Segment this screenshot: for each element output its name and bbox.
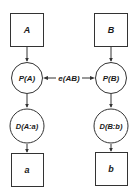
arrowhead-right-icon — [90, 76, 95, 80]
node-circle-PA: P(A) — [12, 63, 43, 94]
node-box-A: A — [11, 14, 44, 47]
node-label-DB: D(B:b) — [100, 122, 123, 131]
node-box-b: b — [96, 153, 128, 186]
node-label-PB: P(B) — [103, 74, 120, 83]
node-label-A: A — [23, 25, 31, 35]
node-circle-DB: D(B:b) — [94, 109, 128, 143]
node-circle-DA: D(A:a) — [10, 109, 44, 143]
node-label-PA: P(A) — [19, 74, 36, 83]
node-circle-PB: P(B) — [96, 63, 127, 94]
node-box-B: B — [95, 14, 128, 47]
node-label-a: a — [24, 165, 29, 175]
node-label-b: b — [108, 164, 114, 174]
node-label-B: B — [108, 25, 115, 35]
edge-label-eAB: e(AB) — [58, 74, 80, 83]
diagram-canvas: A B P(A) P(B) e(AB) D(A:a) D(B:b) — [0, 0, 134, 195]
node-label-DA: D(A:a) — [16, 122, 39, 131]
arrowhead-left-icon — [43, 76, 48, 80]
edge-entanglement: e(AB) — [43, 74, 95, 83]
node-box-a: a — [12, 154, 44, 187]
